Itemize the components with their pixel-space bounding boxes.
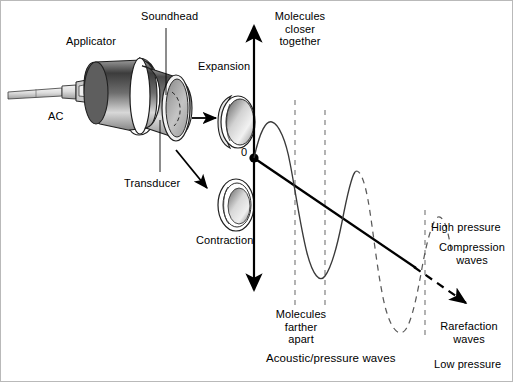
expansion-label: Expansion [198,60,250,73]
expansion-crystal-disc [218,96,255,148]
arrow-to-contraction [176,150,207,188]
axis-top-line-1: Molecules [275,10,325,23]
high-pressure-label: High pressure [431,221,501,234]
contraction-label: Contraction [196,234,253,247]
diagram-graphics-layer [0,0,513,382]
axis-bottom-line-2: farther [276,321,326,334]
axis-origin-label: 0 [241,146,247,159]
wave-gridlines [295,100,425,335]
compression-line-2: waves [439,254,505,267]
molecules-farther-apart-label: Molecules farther apart [276,308,326,346]
ultrasound-wave-diagram: Applicator Soundhead AC Transducer Expan… [0,0,513,382]
compression-waves-label: Compression waves [439,241,505,266]
compression-line-1: Compression [439,241,505,254]
ac-label: AC [48,110,63,123]
rarefaction-line-2: waves [440,333,497,346]
axis-bottom-line-3: apart [276,333,326,346]
axis-top-line-2: closer [275,23,325,36]
axis-bottom-line-1: Molecules [276,308,326,321]
low-pressure-label: Low pressure [434,358,501,371]
molecules-closer-together-label: Molecules closer together [275,10,325,48]
applicator-label: Applicator [66,35,116,48]
acoustic-wave-solid [254,122,355,279]
rarefaction-waves-label: Rarefaction waves [440,320,497,345]
figure-caption: Acoustic/pressure waves [266,352,396,365]
acoustic-wave-dashed [355,171,451,333]
ac-cable [8,85,76,99]
rarefaction-line-1: Rarefaction [440,320,497,333]
contraction-crystal-disc [218,179,254,231]
soundhead-label: Soundhead [141,10,198,23]
transducer-label: Transducer [124,177,180,190]
axis-top-line-3: together [275,35,325,48]
